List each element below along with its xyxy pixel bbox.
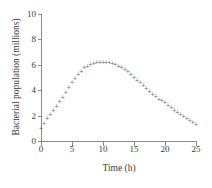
x-tick-label: 10 <box>93 145 113 154</box>
x-tick-label: 20 <box>155 145 175 154</box>
y-tick-label: 10 <box>20 10 36 19</box>
x-tick-label: 0 <box>31 145 51 154</box>
y-tick-label: 2 <box>20 112 36 121</box>
bacterial-population-chart: Time (h) Bacterial population (millions)… <box>0 0 212 188</box>
x-tick-label: 15 <box>124 145 144 154</box>
y-tick-label: 6 <box>20 61 36 70</box>
data-point-marker <box>194 122 199 127</box>
data-point-marker <box>42 121 47 126</box>
y-axis-label: Bacterial population (millions) <box>11 7 21 147</box>
y-tick-label: 8 <box>20 35 36 44</box>
y-tick-label: 4 <box>20 86 36 95</box>
x-tick-label: 25 <box>186 145 206 154</box>
x-axis-label: Time (h) <box>41 163 197 173</box>
x-axis-line <box>41 141 197 142</box>
x-tick-label: 5 <box>62 145 82 154</box>
plot-area <box>41 14 196 141</box>
